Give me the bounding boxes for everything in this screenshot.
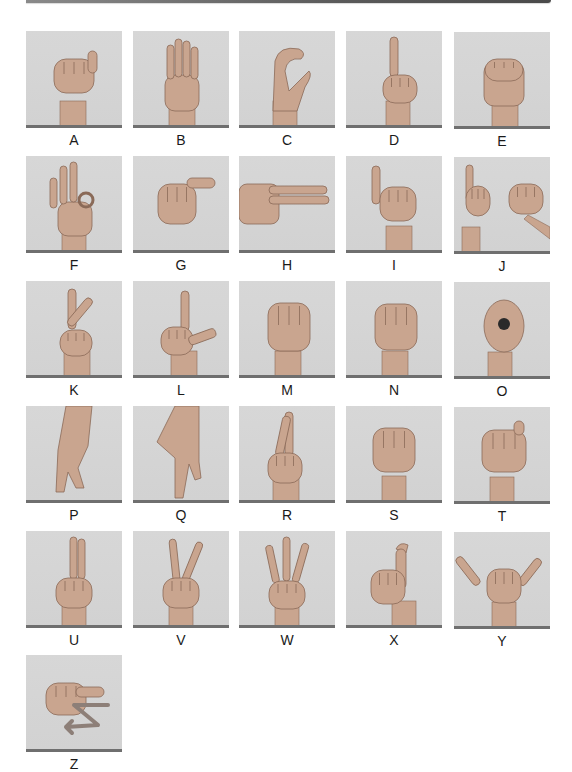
hand-sign-k-icon: [26, 281, 122, 375]
sign-tile-m: M: [239, 281, 335, 378]
top-divider-rule: [26, 0, 551, 3]
tile-base-bar: [133, 625, 229, 628]
sign-tile-h: H: [239, 156, 335, 253]
sign-tile-w: W: [239, 531, 335, 628]
hand-sign-f-icon: [26, 156, 122, 250]
letter-label: H: [239, 257, 335, 273]
sign-tile-t: T: [454, 407, 550, 504]
sign-tile-f: F: [26, 156, 122, 253]
hand-sign-q-icon: [133, 406, 229, 500]
letter-label: M: [239, 382, 335, 398]
letter-label: O: [454, 383, 550, 399]
sign-tile-x: X: [346, 531, 442, 628]
hand-sign-c-icon: [239, 31, 335, 125]
hand-sign-e-icon: [454, 32, 550, 126]
tile-base-bar: [26, 749, 122, 752]
letter-label: I: [346, 257, 442, 273]
hand-sign-a-icon: [26, 31, 122, 125]
letter-label: Z: [26, 756, 122, 772]
letter-label: W: [239, 632, 335, 648]
letter-label: X: [346, 632, 442, 648]
hand-sign-z-icon: [26, 655, 122, 749]
sign-tile-o: O: [454, 282, 550, 379]
sign-tile-e: E: [454, 32, 550, 129]
letter-label: Q: [133, 507, 229, 523]
letter-label: U: [26, 632, 122, 648]
letter-label: T: [454, 508, 550, 524]
tile-base-bar: [133, 125, 229, 128]
hand-sign-o-icon: [454, 282, 550, 376]
sign-tile-g: G: [133, 156, 229, 253]
hand-sign-p-icon: [26, 406, 122, 500]
hand-sign-h-icon: [239, 156, 335, 250]
hand-sign-x-icon: [346, 531, 442, 625]
sign-tile-v: V: [133, 531, 229, 628]
sign-tile-r: R: [239, 406, 335, 503]
tile-base-bar: [26, 125, 122, 128]
tile-base-bar: [133, 500, 229, 503]
sign-tile-p: P: [26, 406, 122, 503]
tile-base-bar: [133, 375, 229, 378]
tile-base-bar: [26, 625, 122, 628]
sign-tile-c: C: [239, 31, 335, 128]
letter-label: P: [26, 507, 122, 523]
tile-base-bar: [346, 125, 442, 128]
letter-label: F: [26, 257, 122, 273]
tile-base-bar: [454, 376, 550, 379]
letter-label: B: [133, 132, 229, 148]
letter-label: G: [133, 257, 229, 273]
letter-label: E: [454, 133, 550, 149]
tile-base-bar: [239, 625, 335, 628]
letter-label: J: [454, 258, 550, 274]
hand-sign-s-icon: [346, 406, 442, 500]
sign-tile-i: I: [346, 156, 442, 253]
letter-label: N: [346, 382, 442, 398]
tile-base-bar: [239, 250, 335, 253]
sign-tile-a: A: [26, 31, 122, 128]
hand-sign-t-icon: [454, 407, 550, 501]
hand-sign-l-icon: [133, 281, 229, 375]
tile-base-bar: [454, 251, 550, 254]
hand-sign-j-icon: [454, 157, 550, 251]
sign-tile-l: L: [133, 281, 229, 378]
letter-label: Y: [454, 633, 550, 649]
hand-sign-y-icon: [454, 532, 550, 626]
tile-base-bar: [346, 625, 442, 628]
hand-sign-n-icon: [346, 281, 442, 375]
hand-sign-w-icon: [239, 531, 335, 625]
letter-label: K: [26, 382, 122, 398]
letter-label: S: [346, 507, 442, 523]
hand-sign-i-icon: [346, 156, 442, 250]
hand-sign-d-icon: [346, 31, 442, 125]
tile-base-bar: [346, 250, 442, 253]
sign-tile-q: Q: [133, 406, 229, 503]
tile-base-bar: [239, 125, 335, 128]
tile-base-bar: [239, 375, 335, 378]
hand-sign-b-icon: [133, 31, 229, 125]
tile-base-bar: [454, 501, 550, 504]
sign-tile-n: N: [346, 281, 442, 378]
sign-tile-k: K: [26, 281, 122, 378]
sign-tile-u: U: [26, 531, 122, 628]
sign-tile-d: D: [346, 31, 442, 128]
sign-tile-b: B: [133, 31, 229, 128]
tile-base-bar: [133, 250, 229, 253]
tile-base-bar: [346, 500, 442, 503]
tile-base-bar: [26, 375, 122, 378]
letter-label: L: [133, 382, 229, 398]
hand-sign-m-icon: [239, 281, 335, 375]
sign-tile-z: Z: [26, 655, 122, 752]
sign-tile-s: S: [346, 406, 442, 503]
hand-sign-u-icon: [26, 531, 122, 625]
tile-base-bar: [346, 375, 442, 378]
sign-tile-y: Y: [454, 532, 550, 629]
tile-base-bar: [26, 500, 122, 503]
letter-label: D: [346, 132, 442, 148]
tile-base-bar: [26, 250, 122, 253]
letter-label: A: [26, 132, 122, 148]
tile-base-bar: [454, 626, 550, 629]
tile-base-bar: [239, 500, 335, 503]
hand-sign-v-icon: [133, 531, 229, 625]
hand-sign-g-icon: [133, 156, 229, 250]
letter-label: V: [133, 632, 229, 648]
